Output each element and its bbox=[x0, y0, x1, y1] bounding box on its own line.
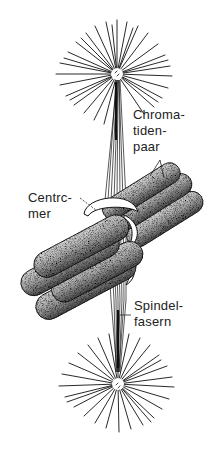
label-spindle-fibers: Spindel- fasern bbox=[134, 298, 183, 330]
label-centromere: Centrc- mer bbox=[28, 190, 72, 222]
label-chromatid-pair: Chroma- tiden- paar bbox=[133, 107, 185, 155]
chromosome-diagram bbox=[0, 0, 210, 450]
